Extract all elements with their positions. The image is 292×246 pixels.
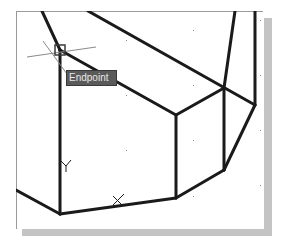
edge (224, 105, 255, 170)
ucs-y-icon (61, 160, 71, 172)
grid-dots (126, 20, 261, 197)
osnap-tooltip: Endpoint (66, 70, 117, 86)
model-wireframe[interactable] (16, 11, 255, 214)
edge (224, 11, 235, 88)
edge (176, 170, 224, 198)
edge (16, 190, 60, 214)
edge (176, 88, 224, 115)
edge (88, 11, 255, 105)
drawing-canvas[interactable] (0, 0, 292, 246)
